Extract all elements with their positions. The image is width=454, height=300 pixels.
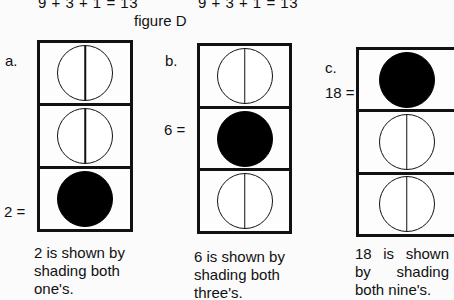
panel-c-cell-1 [359,50,454,112]
filled-circle-icon [379,52,435,108]
panel-a-cell-2 [40,106,130,169]
panel-b-cell-2 [200,109,289,172]
description-line: 6 is shown by [194,248,299,266]
panel-b-place-value-stack [197,43,292,234]
panel-a-label: a. [5,52,18,69]
panel-b-value-label: 6 = [164,121,185,138]
divided-circle-icon [57,45,113,101]
panel-b-cell-3 [200,171,289,231]
figure-caption: figure D [134,12,187,29]
description-line: both nine's. [355,281,449,299]
panel-c-cell-3 [359,175,454,234]
equation-right: 9 + 3 + 1 = 13 [198,0,298,11]
description-line: shading both [34,262,139,280]
panel-c-label: c. [325,59,337,76]
description-line: one's. [34,280,139,298]
description-line: by shading [355,263,449,281]
panel-b-label: b. [165,52,178,69]
equation-left: 9 + 3 + 1 = 13 [38,0,138,11]
panel-a-cell-1 [40,43,130,106]
panel-c-description: 18 is shown by shading both nine's. [355,245,449,299]
divided-circle-icon [57,108,113,164]
filled-circle-icon [217,111,273,167]
panel-a-cell-3 [40,169,130,229]
divided-circle-icon [217,48,273,104]
divided-circle-icon [217,173,273,229]
divided-circle-icon [379,114,435,170]
panel-c-place-value-stack [356,47,454,237]
divided-circle-icon [379,176,435,232]
description-line: 2 is shown by [34,244,139,262]
panel-c-value-label: 18 = [325,84,355,101]
panel-a-value-label: 2 = [4,203,25,220]
filled-circle-icon [57,171,113,227]
panel-b-description: 6 is shown by shading both three's. [194,248,299,300]
description-line: three's. [194,284,299,300]
panel-a-description: 2 is shown by shading both one's. [34,244,139,298]
description-line: 18 is shown [355,245,449,263]
panel-b-cell-1 [200,46,289,109]
panel-a-place-value-stack [37,40,133,232]
panel-c-cell-2 [359,112,454,174]
description-line: shading both [194,266,299,284]
